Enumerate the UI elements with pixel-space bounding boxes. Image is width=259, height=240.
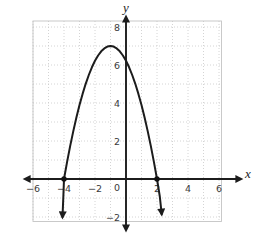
curve-layer — [61, 46, 161, 217]
y-axis-label: y — [121, 0, 129, 15]
y-tick-label: 2 — [114, 136, 120, 147]
y-tick-label: 4 — [114, 98, 120, 109]
y-tick-label: 8 — [114, 22, 120, 33]
x-tick-label: 0 — [114, 182, 120, 193]
y-tick-label: −2 — [106, 212, 120, 223]
coordinate-plane-figure: −6−4−202468642−2 y x — [0, 0, 259, 240]
x-intercept-point — [61, 176, 66, 181]
x-tick-label: −2 — [88, 183, 102, 194]
y-tick-label: 6 — [114, 60, 120, 71]
x-intercept-point — [154, 176, 159, 181]
parabola-graph-svg: −6−4−202468642−2 y x — [0, 0, 259, 240]
parabola-curve — [63, 46, 162, 217]
x-tick-label: 6 — [216, 183, 222, 194]
x-tick-label: −6 — [26, 183, 40, 194]
x-axis-label: x — [244, 166, 251, 181]
x-tick-label: 4 — [185, 183, 191, 194]
